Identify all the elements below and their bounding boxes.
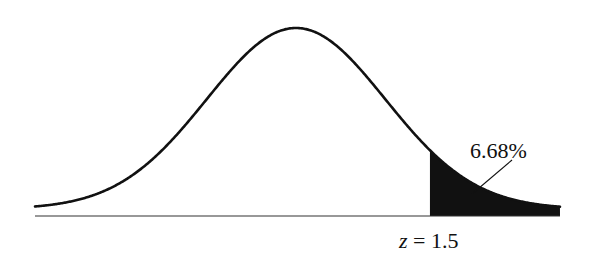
bell-curve	[35, 28, 560, 207]
normal-distribution-figure: 6.68% z = 1.5	[0, 0, 589, 257]
z-variable: z	[398, 228, 408, 253]
z-value-label: z = 1.5	[398, 228, 458, 253]
leader-line	[472, 160, 512, 194]
area-percent-label: 6.68%	[470, 138, 527, 163]
z-value: = 1.5	[408, 228, 459, 253]
